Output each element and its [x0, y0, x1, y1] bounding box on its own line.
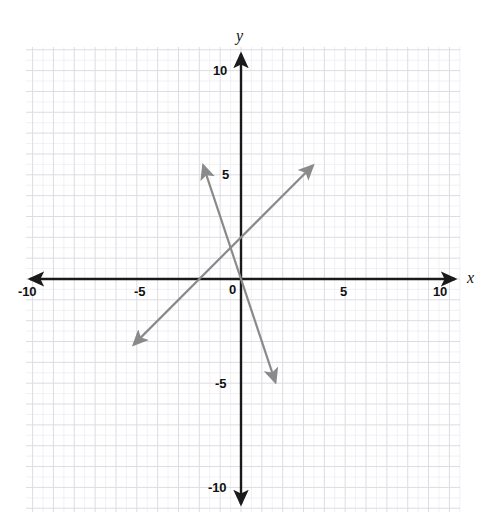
- plotted-line-2: [203, 165, 275, 382]
- plotted-lines: [134, 165, 313, 382]
- x-tick-label-neg10: -10: [18, 285, 36, 298]
- x-axis-label: x: [467, 270, 474, 286]
- x-tick-label-neg5: -5: [134, 285, 145, 298]
- x-tick-label-10: 10: [433, 285, 447, 298]
- origin-label: 0: [229, 283, 236, 296]
- x-tick-label-5: 5: [340, 285, 347, 298]
- graph-canvas: [0, 0, 485, 517]
- y-tick-label-10: 10: [213, 64, 227, 77]
- y-tick-label-5: 5: [222, 168, 229, 181]
- y-axis-label: y: [236, 28, 243, 44]
- y-tick-label-neg10: -10: [208, 481, 226, 494]
- coordinate-plane-figure: -10 -5 5 10 10 5 -5 -10 0 x y: [0, 0, 485, 517]
- plotted-line-1: [134, 165, 313, 344]
- y-tick-label-neg5: -5: [215, 377, 226, 390]
